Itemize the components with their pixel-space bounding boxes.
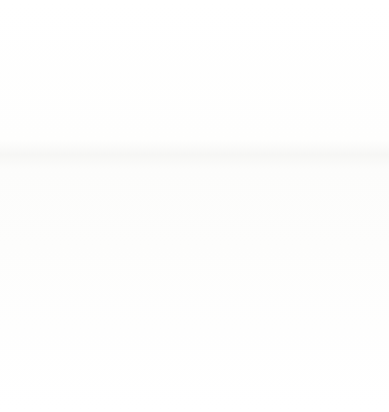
point-label-a: A [53, 29, 61, 43]
plot-frame [37, 24, 372, 395]
x-axis-label: Time [180, 398, 215, 410]
point-label-b-prime: B [141, 290, 149, 304]
prime-mark: ′ [150, 288, 152, 298]
cooling-curve-path [38, 24, 370, 394]
y-axis-label: Temperature [18, 181, 30, 274]
point-label-c: C [199, 246, 207, 260]
point-label-b-prime-group: B ′ [141, 288, 152, 304]
cooling-curve-figure: Temperature Time T f A B B ′ C D [0, 0, 389, 412]
tf-label: T f [43, 256, 58, 272]
tf-reference-line [38, 272, 213, 273]
frame-border [37, 24, 372, 395]
point-label-b: B [149, 246, 157, 260]
point-label-d: D [358, 366, 367, 380]
tf-label-subscript: f [52, 261, 58, 272]
cooling-curve-svg: Temperature Time T f A B B ′ C D [0, 0, 389, 412]
tf-label-main: T [43, 256, 52, 270]
